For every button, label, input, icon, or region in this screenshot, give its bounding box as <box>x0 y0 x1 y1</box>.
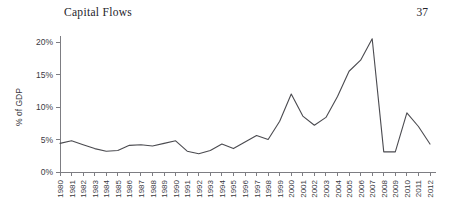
x-axis-tick-label: 1986 <box>125 179 134 197</box>
x-axis-tick-label: 1992 <box>195 179 204 197</box>
x-axis-tick-label: 2006 <box>357 179 366 197</box>
x-axis-tick-label: 2002 <box>310 179 319 197</box>
x-axis-tick-label: 1982 <box>79 179 88 197</box>
x-axis-tick-label: 1998 <box>264 179 273 197</box>
x-axis-tick-label: 1987 <box>137 179 146 197</box>
x-axis-tick-label: 2005 <box>345 179 354 197</box>
page-number: 37 <box>417 6 429 18</box>
x-axis-tick-label: 1993 <box>206 179 215 197</box>
x-axis-tick-label: 1996 <box>241 179 250 197</box>
x-axis-tick-label: 2000 <box>287 179 296 197</box>
y-axis-tick-label: 10% <box>36 102 53 112</box>
x-axis-tick-label: 1989 <box>160 179 169 197</box>
x-axis-tick-label: 1984 <box>102 179 111 197</box>
capital-flows-line-chart: 0%5%10%15%20% 19801981198219831984198519… <box>0 26 452 214</box>
x-axis-tick-label: 2011 <box>414 179 423 197</box>
y-axis-tick-label: 15% <box>36 70 53 80</box>
x-axis-tick-label: 1980 <box>56 179 65 197</box>
y-axis-tick-label: 20% <box>36 37 53 47</box>
x-axis-tick-label: 2009 <box>391 179 400 197</box>
x-axis-tick-label: 1990 <box>172 179 181 197</box>
x-axis-tick-label: 2001 <box>299 179 308 197</box>
y-axis-title: % of GDP <box>14 88 24 126</box>
x-axis-tick-label: 2007 <box>368 179 377 197</box>
x-axis-tick-label: 1985 <box>114 179 123 197</box>
x-axis: 1980198119821983198419851986198719881989… <box>56 172 436 198</box>
y-axis-tick-label: 0% <box>41 167 54 177</box>
y-axis: 0%5%10%15%20% <box>36 36 60 177</box>
x-axis-tick-label: 2008 <box>380 179 389 197</box>
x-axis-tick-label: 1981 <box>68 179 77 197</box>
x-axis-tick-label: 2010 <box>403 179 412 197</box>
x-axis-tick-label: 1983 <box>91 179 100 197</box>
chart-canvas: 0%5%10%15%20% 19801981198219831984198519… <box>0 26 452 214</box>
x-axis-tick-label: 2003 <box>322 179 331 197</box>
data-series-line <box>60 39 430 154</box>
figure-page: Capital Flows 37 0%5%10%15%20% 198019811… <box>0 0 452 214</box>
x-axis-tick-label: 1994 <box>218 179 227 197</box>
x-axis-tick-label: 1999 <box>276 179 285 197</box>
running-head-title: Capital Flows <box>64 6 132 18</box>
x-axis-tick-label: 1991 <box>183 179 192 197</box>
running-head: Capital Flows 37 <box>0 6 452 22</box>
x-axis-tick-label: 2004 <box>334 179 343 197</box>
y-axis-tick-label: 5% <box>41 135 54 145</box>
x-axis-tick-label: 2012 <box>426 179 435 197</box>
x-axis-tick-label: 1997 <box>253 179 262 197</box>
x-axis-tick-label: 1995 <box>229 179 238 197</box>
x-axis-tick-label: 1988 <box>149 179 158 197</box>
